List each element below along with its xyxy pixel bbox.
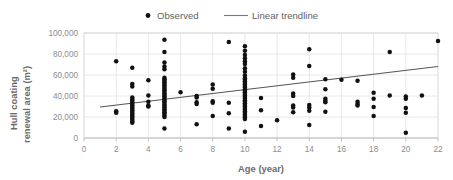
x-axis-tick-label: 22 xyxy=(433,145,443,154)
data-point xyxy=(371,114,376,119)
x-axis-tick-label: 18 xyxy=(369,145,379,154)
data-point xyxy=(355,103,360,108)
x-axis-tick-label: 2 xyxy=(114,145,119,154)
data-point xyxy=(146,93,151,98)
x-axis-tick-label: 0 xyxy=(82,145,87,154)
data-point xyxy=(404,96,409,101)
data-point xyxy=(291,105,296,110)
data-point xyxy=(291,75,296,80)
y-axis-tick-label: 80,000 xyxy=(53,50,78,59)
data-point xyxy=(291,110,296,115)
data-point xyxy=(307,108,312,113)
data-point xyxy=(259,108,264,113)
data-point xyxy=(162,60,167,65)
data-point xyxy=(210,86,215,91)
y-axis-title-line1: Hull coating xyxy=(8,76,19,130)
x-axis-tick-label: 14 xyxy=(305,145,315,154)
data-point xyxy=(404,111,409,116)
y-axis-title-line2: renewal area (m²) xyxy=(21,66,32,143)
data-point xyxy=(162,115,167,120)
y-axis-tick-labels: 020,00040,00060,00080,000100,000 xyxy=(48,29,78,143)
data-point xyxy=(210,101,215,106)
scatter-chart: Observed Linear trendline Hull coating r… xyxy=(0,0,453,180)
chart-container: Observed Linear trendline Hull coating r… xyxy=(0,0,453,180)
data-point xyxy=(323,87,328,92)
y-axis-tick-label: 40,000 xyxy=(53,92,78,101)
data-point xyxy=(178,90,183,95)
data-point xyxy=(259,124,264,129)
data-point xyxy=(371,105,376,110)
data-point xyxy=(307,64,312,69)
data-point xyxy=(227,40,232,45)
linear-trendline xyxy=(100,67,438,107)
data-point xyxy=(146,104,151,109)
data-point xyxy=(404,106,409,111)
data-point xyxy=(210,82,215,87)
x-axis-tick-label: 6 xyxy=(178,145,183,154)
y-axis-tick-label: 20,000 xyxy=(53,113,78,122)
data-point xyxy=(243,49,248,54)
data-point xyxy=(420,93,425,98)
data-point xyxy=(243,117,248,122)
legend-observed-label: Observed xyxy=(157,10,199,21)
data-point xyxy=(307,123,312,128)
x-axis-tick-labels: 0246810121416182022 xyxy=(82,145,443,154)
data-point xyxy=(323,77,328,82)
data-point xyxy=(130,121,135,126)
data-point xyxy=(162,38,167,43)
data-point xyxy=(114,111,119,116)
data-point xyxy=(371,96,376,101)
data-point xyxy=(387,93,392,98)
y-axis-tick-label: 0 xyxy=(73,134,78,143)
x-axis-title: Age (year) xyxy=(238,163,284,174)
legend-trendline-label: Linear trendline xyxy=(252,10,318,21)
data-point xyxy=(162,126,167,131)
data-point xyxy=(404,131,409,136)
chart-legend: Observed Linear trendline xyxy=(146,10,319,21)
data-point xyxy=(307,47,312,52)
data-point xyxy=(436,39,441,44)
data-point xyxy=(243,129,248,134)
data-point xyxy=(194,102,199,107)
x-axis-tick-label: 10 xyxy=(240,145,250,154)
x-axis-tick-label: 4 xyxy=(146,145,151,154)
data-point xyxy=(259,96,264,101)
x-axis-tick-label: 16 xyxy=(337,145,347,154)
legend-observed-marker xyxy=(146,13,151,18)
data-point xyxy=(194,95,199,100)
plot-area xyxy=(84,33,440,142)
data-point xyxy=(162,67,167,72)
data-point xyxy=(130,84,135,89)
data-point xyxy=(355,79,360,84)
data-point xyxy=(114,59,119,64)
data-point xyxy=(194,122,199,127)
data-point xyxy=(291,94,296,99)
data-point xyxy=(227,111,232,116)
data-point xyxy=(387,50,392,55)
data-point xyxy=(243,62,248,66)
y-axis-tick-label: 60,000 xyxy=(53,71,78,80)
data-point xyxy=(243,44,248,49)
y-axis-tick-label: 100,000 xyxy=(48,29,78,38)
data-point xyxy=(371,91,376,96)
data-point xyxy=(210,114,215,119)
x-axis-tick-label: 8 xyxy=(210,145,215,154)
data-point xyxy=(227,126,232,131)
data-point xyxy=(323,110,328,115)
data-point xyxy=(275,118,280,123)
data-point xyxy=(130,65,135,70)
data-point xyxy=(339,77,344,82)
y-axis-title: Hull coating renewal area (m²) xyxy=(8,66,32,143)
x-axis-tick-label: 12 xyxy=(273,145,283,154)
data-point xyxy=(323,100,328,105)
data-point xyxy=(162,50,167,55)
plot-border xyxy=(84,33,438,138)
data-point xyxy=(227,101,232,106)
x-axis-tick-label: 20 xyxy=(401,145,411,154)
data-point xyxy=(146,78,151,83)
